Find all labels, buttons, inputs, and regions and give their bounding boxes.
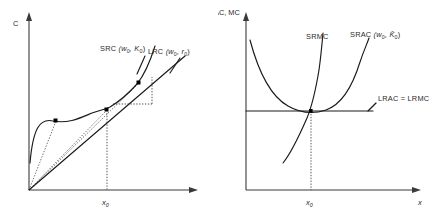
y-axis-label-left: C — [13, 19, 19, 28]
y-axis-right — [243, 12, 249, 190]
curve-src — [30, 46, 155, 163]
panel-total-cost: C SRC (w0, K0) LRC (w0, r0) x0 — [0, 0, 218, 215]
x-axis-right — [246, 187, 421, 193]
leader-lrc — [170, 58, 180, 73]
x-axis-label-right: x — [417, 198, 423, 207]
marker-tangency-high — [137, 81, 141, 85]
marker-tangency-low — [54, 119, 58, 123]
marker-tangency-mid — [105, 108, 109, 112]
slope-triangle-left — [113, 77, 152, 104]
origin-rays-left — [29, 83, 139, 190]
y-axis-left — [26, 12, 32, 190]
curve-srmc — [283, 33, 323, 163]
x-tick-label-left: x0 — [101, 198, 109, 208]
y-axis-label-right: AC, MC — [218, 8, 241, 17]
label-lrac-lrmc: LRAC = LRMC — [378, 94, 430, 103]
cost-curves-figure: C SRC (w0, K0) LRC (w0, r0) x0 — [0, 0, 436, 215]
leader-src — [137, 56, 145, 74]
label-srmc: SRMC — [306, 32, 329, 41]
curve-srac — [250, 38, 369, 112]
marker-minimum-point — [309, 109, 313, 113]
label-lrc: LRC (w0, r0) — [148, 47, 190, 57]
panel-average-marginal-cost: AC, MC SRMC SRAC (w0, K̄0) LRAC = LRMC x… — [218, 0, 436, 215]
label-src: SRC (w0, K0) — [100, 44, 145, 54]
leader-lrac — [368, 103, 376, 111]
label-srac: SRAC (w0, K̄0) — [350, 30, 400, 40]
curve-lrc — [29, 56, 185, 190]
x-axis-left — [29, 187, 198, 193]
x-tick-label-right: x0 — [305, 198, 313, 208]
